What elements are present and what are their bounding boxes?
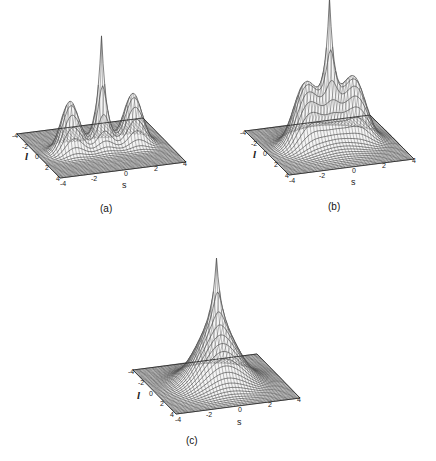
- s-axis-label: s: [237, 418, 242, 427]
- s-tick-neg2: -2: [206, 411, 212, 418]
- s-tick-0: 0: [238, 406, 242, 413]
- surface-plot-c: -4 -2 0 2 4 l -4 -2 0 2 4 s (c): [100, 240, 340, 461]
- surface-wireframe-b: [218, 0, 436, 200]
- l-tick-neg2: -2: [138, 379, 144, 386]
- s-tick-neg2: -2: [319, 172, 325, 179]
- s-tick-4: 4: [183, 160, 187, 167]
- l-axis-label: l: [137, 391, 140, 400]
- l-tick-neg2: -2: [22, 143, 28, 150]
- l-tick-4: 4: [170, 411, 174, 418]
- caption-c: (c): [186, 435, 198, 446]
- l-tick-0: 0: [149, 390, 153, 397]
- s-tick-neg4: -4: [60, 180, 66, 187]
- l-tick-2: 2: [45, 164, 49, 171]
- s-tick-2: 2: [268, 401, 272, 408]
- s-tick-0: 0: [352, 167, 356, 174]
- s-tick-0: 0: [124, 170, 128, 177]
- s-tick-neg2: -2: [91, 175, 97, 182]
- l-tick-0: 0: [263, 150, 267, 157]
- surface-wireframe-c: [100, 240, 340, 430]
- s-tick-neg4: -4: [175, 416, 181, 423]
- surface-wireframe-a: [0, 0, 218, 200]
- s-tick-neg4: -4: [289, 177, 295, 184]
- l-tick-2: 2: [160, 400, 164, 407]
- l-axis-label: l: [253, 150, 256, 159]
- l-tick-neg4: -4: [12, 132, 18, 139]
- l-tick-neg2: -2: [251, 140, 257, 147]
- caption-a: (a): [100, 203, 112, 214]
- surface-plot-a: -4 -2 0 2 4 l -4 -2 0 2 4 s (a): [0, 0, 218, 230]
- s-tick-4: 4: [412, 157, 416, 164]
- s-tick-4: 4: [297, 396, 301, 403]
- s-tick-2: 2: [154, 165, 158, 172]
- l-tick-0: 0: [35, 153, 39, 160]
- caption-b: (b): [328, 201, 340, 212]
- l-tick-2: 2: [274, 161, 278, 168]
- l-axis-label: l: [25, 152, 28, 161]
- surface-plot-b: -4 -2 0 2 4 l -4 -2 0 2 4 s (b): [218, 0, 436, 230]
- s-tick-2: 2: [382, 162, 386, 169]
- l-tick-neg4: -4: [128, 368, 134, 375]
- s-axis-label: s: [351, 178, 356, 187]
- s-axis-label: s: [122, 181, 127, 190]
- l-tick-neg4: -4: [240, 129, 246, 136]
